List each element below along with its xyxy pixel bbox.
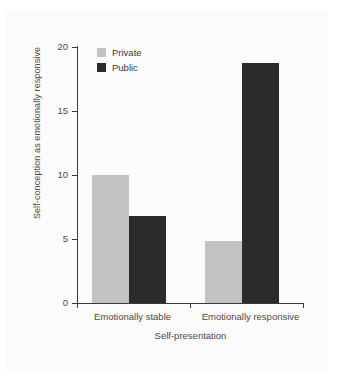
x-category-label-0: Emotionally stable xyxy=(75,311,190,322)
y-tick-label-10: 10 xyxy=(57,169,68,180)
y-tick-15: 15 xyxy=(72,111,77,112)
legend: Private Public xyxy=(97,46,142,76)
plot-area: 0 5 10 15 20 Emotionally stable Emotiona… xyxy=(0,0,339,384)
y-tick-label-20: 20 xyxy=(57,41,68,52)
legend-label-private: Private xyxy=(112,47,142,58)
y-tick-label-0: 0 xyxy=(63,297,68,308)
chart-figure: 0 5 10 15 20 Emotionally stable Emotiona… xyxy=(0,0,339,384)
bar-private-emotionally-responsive xyxy=(205,241,242,303)
x-tick-middle xyxy=(190,303,191,308)
x-axis-title: Self-presentation xyxy=(77,330,304,341)
legend-item-public: Public xyxy=(97,61,142,74)
legend-swatch-private-icon xyxy=(97,48,106,57)
x-tick-right xyxy=(303,303,304,308)
y-tick-label-15: 15 xyxy=(57,105,68,116)
y-tick-10: 10 xyxy=(72,175,77,176)
y-axis-title: Self-conception as emotionally responsiv… xyxy=(32,33,42,233)
bar-public-emotionally-responsive xyxy=(242,63,279,303)
y-tick-20: 20 xyxy=(72,47,77,48)
legend-swatch-public-icon xyxy=(97,63,106,72)
legend-label-public: Public xyxy=(112,62,138,73)
x-tick-left xyxy=(77,303,78,308)
bar-public-emotionally-stable xyxy=(129,216,166,303)
legend-item-private: Private xyxy=(97,46,142,59)
x-category-label-1: Emotionally responsive xyxy=(188,311,313,322)
bar-private-emotionally-stable xyxy=(92,175,129,303)
y-axis-line xyxy=(77,46,78,304)
y-tick-5: 5 xyxy=(72,239,77,240)
y-tick-label-5: 5 xyxy=(63,233,68,244)
